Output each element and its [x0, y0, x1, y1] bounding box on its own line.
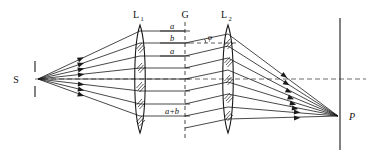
label-lens1: L [133, 9, 139, 20]
rays-source-to-lens1 [38, 31, 140, 116]
label-angle-phi: φ [208, 33, 213, 42]
optics-ray-diagram: S L 1 G L 2 P a b a a+b φ [0, 0, 372, 161]
label-lens1-subscript: 1 [140, 15, 143, 22]
angle-arc [205, 39, 207, 43]
label-lens2: L [221, 9, 227, 20]
rays-lens1-to-grating [140, 31, 190, 116]
rays-grating-to-lens2 [185, 34, 228, 128]
label-order-a-top: a [170, 21, 174, 31]
label-image-point: P [348, 111, 355, 122]
ray-direction-arrows-left [77, 55, 85, 99]
label-source: S [13, 74, 19, 85]
label-order-a-mid: a [170, 46, 174, 56]
label-order-sum: a+b [165, 106, 179, 116]
label-grating: G [181, 9, 188, 20]
label-lens2-subscript: 2 [228, 15, 231, 22]
label-order-b: b [170, 33, 174, 43]
